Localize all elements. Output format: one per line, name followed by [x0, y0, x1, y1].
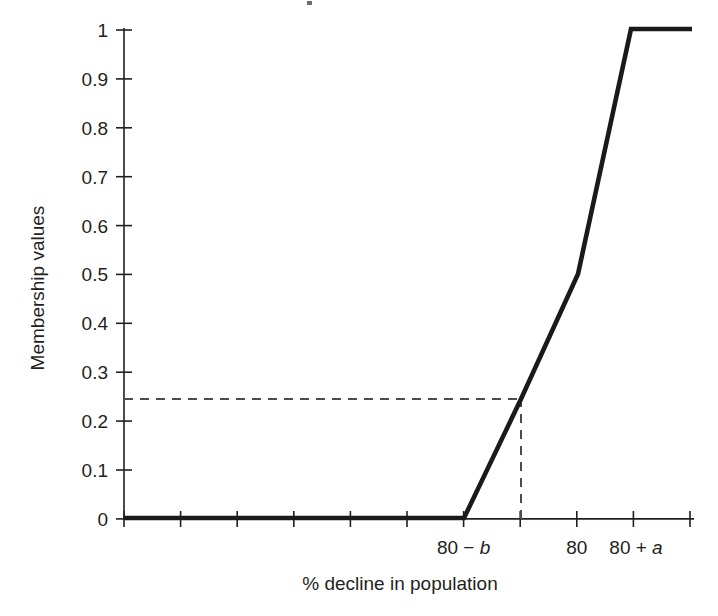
y-tick-label-0-6: 0.6 — [82, 216, 108, 237]
y-tick-label-0-3: 0.3 — [82, 362, 108, 383]
x-tick-label-80-plus-a: 80 + a — [609, 537, 662, 558]
x-axis: 80 − b 80 80 + a % decline in population — [124, 511, 694, 594]
x-tick-label-80-prefix: 80 — [566, 537, 587, 558]
membership-function-line — [124, 29, 692, 518]
x-axis-title: % decline in population — [302, 573, 497, 594]
y-tick-label-0-1: 0.1 — [82, 460, 108, 481]
y-tick-label-0-9: 0.9 — [82, 69, 108, 90]
x-tick-label-80-plus-a-prefix: 80 + — [609, 537, 652, 558]
y-tick-label-0: 0 — [97, 509, 108, 530]
y-tick-label-1: 1 — [97, 20, 108, 41]
membership-function-chart: 1 0.9 0.8 0.7 0.6 0.5 0.4 0.3 0.2 0.1 0 … — [0, 0, 718, 616]
x-tick-label-80-plus-a-italic: a — [652, 537, 663, 558]
y-tick-label-0-7: 0.7 — [82, 167, 108, 188]
x-tick-label-80: 80 — [566, 537, 587, 558]
chart-figure: 1 0.9 0.8 0.7 0.6 0.5 0.4 0.3 0.2 0.1 0 … — [0, 0, 718, 616]
x-tick-label-80-minus-b-prefix: 80 − — [437, 537, 480, 558]
x-axis-tick-labels: 80 − b 80 80 + a — [437, 537, 663, 558]
x-tick-label-80-minus-b: 80 − b — [437, 537, 490, 558]
y-axis-tick-labels: 1 0.9 0.8 0.7 0.6 0.5 0.4 0.3 0.2 0.1 0 — [82, 20, 109, 530]
y-tick-label-0-8: 0.8 — [82, 118, 108, 139]
x-tick-label-80-minus-b-italic: b — [480, 537, 491, 558]
y-axis: 1 0.9 0.8 0.7 0.6 0.5 0.4 0.3 0.2 0.1 0 … — [27, 20, 132, 530]
scan-artifact-speck — [307, 1, 312, 5]
guide-lines — [124, 399, 521, 519]
y-tick-label-0-2: 0.2 — [82, 411, 108, 432]
y-axis-title: Membership values — [27, 206, 48, 371]
y-tick-label-0-4: 0.4 — [82, 313, 109, 334]
y-tick-label-0-5: 0.5 — [82, 264, 108, 285]
